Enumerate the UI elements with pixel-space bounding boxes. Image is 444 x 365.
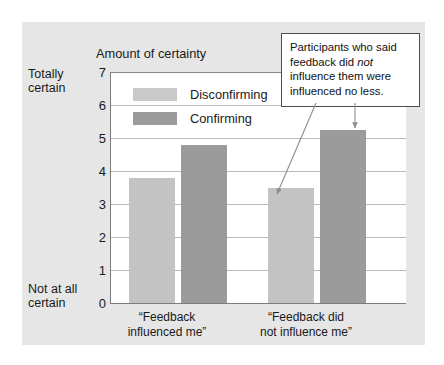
- callout-line-2-text: feedback did: [290, 56, 357, 68]
- legend-swatch-disconfirming: [133, 88, 177, 101]
- figure: Amount of certainty Totally certain Not …: [0, 0, 444, 365]
- y-tick-5: 5: [84, 132, 106, 145]
- y-tick-6: 6: [84, 99, 106, 112]
- callout-line-3: influence them were: [290, 69, 412, 84]
- y-tick-2: 2: [84, 231, 106, 244]
- legend-item-disconfirming: Disconfirming: [133, 84, 268, 105]
- callout-line-4: influenced no less.: [290, 84, 412, 99]
- legend-label-disconfirming: Disconfirming: [190, 87, 268, 102]
- legend-swatch-confirming: [133, 112, 177, 125]
- y-axis-bottom-label-line2: certain: [28, 296, 77, 310]
- y-tick-0: 0: [84, 297, 106, 310]
- x-label-group1-line2: influenced me”: [97, 325, 237, 340]
- y-tick-1: 1: [84, 264, 106, 277]
- callout-line-1: Participants who said: [290, 40, 412, 55]
- x-label-feedback-did-not-influence-me: “Feedback did not influence me”: [236, 310, 376, 340]
- bar-confirming-feedback-did-not-influence-me: [320, 130, 366, 303]
- y-tick-4: 4: [84, 165, 106, 178]
- x-label-feedback-influenced-me: “Feedback influenced me”: [97, 310, 237, 340]
- chart-title: Amount of certainty: [96, 46, 206, 61]
- y-axis-bottom-label: Not at all certain: [28, 282, 77, 311]
- annotation-callout: Participants who said feedback did not i…: [281, 33, 420, 107]
- y-tick-3: 3: [84, 198, 106, 211]
- callout-line-2: feedback did not: [290, 55, 412, 70]
- callout-emphasis-not: not: [357, 56, 373, 68]
- y-axis-top-label-line2: certain: [28, 81, 66, 95]
- bar-confirming-feedback-influenced-me: [181, 145, 227, 303]
- y-tick-7: 7: [84, 66, 106, 79]
- x-label-group2-line1: “Feedback did: [236, 310, 376, 325]
- bar-disconfirming-feedback-influenced-me: [129, 178, 175, 303]
- y-axis-bottom-label-line1: Not at all: [28, 282, 77, 296]
- legend-item-confirming: Confirming: [133, 108, 268, 129]
- legend-label-confirming: Confirming: [190, 111, 252, 126]
- y-axis-top-label: Totally certain: [28, 67, 66, 96]
- x-label-group2-line2: not influence me”: [236, 325, 376, 340]
- legend: Disconfirming Confirming: [133, 84, 268, 132]
- bar-disconfirming-feedback-did-not-influence-me: [268, 188, 314, 304]
- x-label-group1-line1: “Feedback: [97, 310, 237, 325]
- y-axis-top-label-line1: Totally: [28, 67, 66, 81]
